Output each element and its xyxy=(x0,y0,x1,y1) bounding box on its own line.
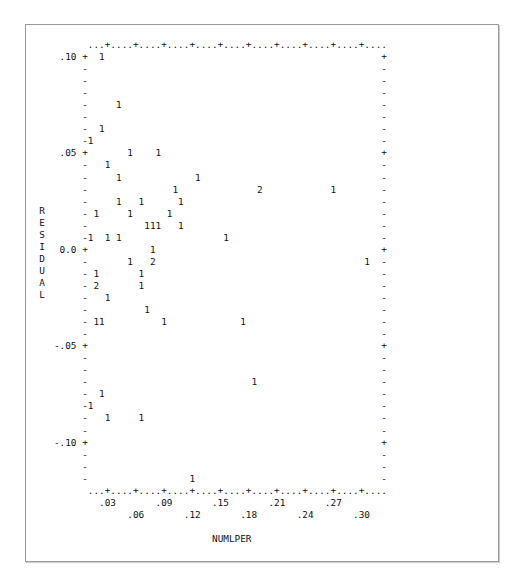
plot-row: - - xyxy=(37,75,387,87)
plot-row: - - xyxy=(37,461,387,473)
plot-row: - - xyxy=(37,449,387,461)
plot-row: - - xyxy=(37,352,387,364)
plot-row: ...+....+....+....+....+....+....+....+.… xyxy=(37,485,387,497)
plot-row: - - xyxy=(37,425,387,437)
y-axis-label: R E S I D U A L xyxy=(38,205,46,302)
plot-row: - 1 - xyxy=(37,292,387,304)
line-printer-scatter-plot: ...+....+....+....+....+....+....+....+.… xyxy=(37,39,387,521)
x-axis-label: NUMLPER xyxy=(212,533,252,544)
plot-row: - - xyxy=(37,63,387,75)
plot-row: - 1 - xyxy=(37,473,387,485)
plot-row: -1 - xyxy=(37,400,387,412)
plot-row: 0.0 + 1 + xyxy=(37,244,387,256)
plot-row: - 111 1 - xyxy=(37,220,387,232)
plot-row: - 11 1 1 - xyxy=(37,316,387,328)
plot-row: - - xyxy=(37,328,387,340)
plot-row: - 1 - xyxy=(37,376,387,388)
plot-row: - 1 - xyxy=(37,99,387,111)
plot-row: - 1 - xyxy=(37,123,387,135)
plot-row: - 1 1 - xyxy=(37,412,387,424)
plot-row: - - xyxy=(37,111,387,123)
plot-row: - 1 - xyxy=(37,304,387,316)
plot-row: .06 .12 .18 .24 .30 xyxy=(37,509,387,521)
plot-row: -1 - xyxy=(37,135,387,147)
plot-row: .05 + 1 1 + xyxy=(37,147,387,159)
plot-row: - 1 2 1 - xyxy=(37,256,387,268)
plot-row: -1 1 1 1 - xyxy=(37,232,387,244)
plot-row: - - xyxy=(37,87,387,99)
plot-row: .03 .09 .15 .21 .27 xyxy=(37,497,387,509)
plot-row: - 1 - xyxy=(37,388,387,400)
plot-row: - 2 1 - xyxy=(37,280,387,292)
plot-row: -.05 + + xyxy=(37,340,387,352)
plot-row: - 1 1 - xyxy=(37,172,387,184)
plot-row: - 1 1 - xyxy=(37,268,387,280)
plot-row: - 1 2 1 - xyxy=(37,184,387,196)
plot-row: -.10 + + xyxy=(37,437,387,449)
plot-row: ...+....+....+....+....+....+....+....+.… xyxy=(37,39,387,51)
plot-row: - 1 - xyxy=(37,159,387,171)
plot-row: .10 + 1 + xyxy=(37,51,387,63)
plot-row: - 1 1 1 - xyxy=(37,208,387,220)
plot-row: - - xyxy=(37,364,387,376)
plot-row: - 1 1 1 - xyxy=(37,196,387,208)
